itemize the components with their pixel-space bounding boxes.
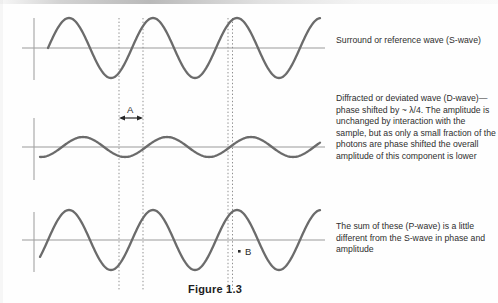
figure-caption: Figure 1.3 bbox=[0, 283, 430, 295]
label-a: A bbox=[127, 104, 133, 115]
figure-container: A B Surround or reference wave (S-wave) … bbox=[0, 0, 498, 303]
note-s-wave: Surround or reference wave (S-wave) bbox=[336, 35, 496, 47]
phase-shift-arrow bbox=[119, 115, 143, 120]
label-b: B bbox=[245, 246, 251, 257]
note-p-wave: The sum of these (P-wave) is a little di… bbox=[336, 221, 496, 256]
marker-dot-b bbox=[238, 250, 241, 253]
note-d-wave: Diffracted or deviated wave (D-wave)—pha… bbox=[336, 93, 496, 163]
